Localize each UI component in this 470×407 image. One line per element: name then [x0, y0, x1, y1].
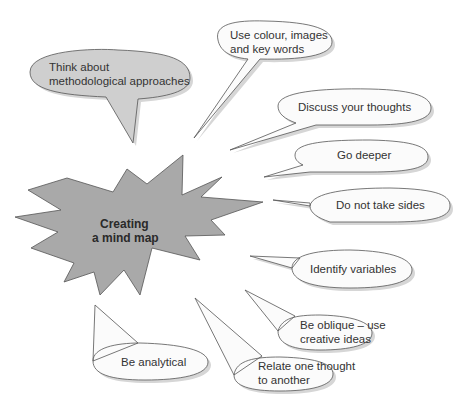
bubble-text: and key words	[230, 43, 304, 55]
central-starburst: Creating a mind map	[15, 155, 263, 295]
mind-map-diagram: Think about methodological approaches Us…	[0, 0, 470, 407]
center-text: Creating	[100, 217, 149, 231]
bubble-oblique: Be oblique – use creative ideas	[245, 290, 386, 353]
bubble-text: Identify variables	[310, 263, 397, 275]
bubble-deeper: Go deeper	[264, 140, 431, 180]
bubble-variables: Identify variables	[250, 250, 415, 291]
bubble-text: to another	[258, 374, 310, 386]
bubble-text: Discuss your thoughts	[298, 101, 411, 113]
bubble-text: methodological approaches	[49, 75, 190, 87]
bubble-text: Use colour, images	[230, 29, 328, 41]
bubble-text: Be analytical	[121, 356, 186, 368]
bubble-text: creative ideas	[300, 333, 371, 345]
bubble-text: Think about	[49, 61, 110, 73]
bubble-text: Relate one thought	[258, 360, 356, 372]
bubble-methodological: Think about methodological approaches	[30, 49, 193, 146]
bubble-text: Do not take sides	[336, 199, 425, 211]
bubble-analytical: Be analytical	[93, 305, 211, 383]
bubble-text: Be oblique – use	[300, 319, 386, 331]
bubble-text: Go deeper	[337, 149, 392, 161]
bubble-sides: Do not take sides	[273, 188, 453, 225]
center-text: a mind map	[92, 231, 159, 245]
